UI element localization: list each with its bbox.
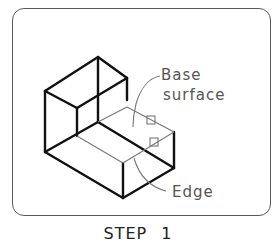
label-base: Base <box>161 68 202 83</box>
step-caption: STEP 1 <box>0 224 276 243</box>
label-edge: Edge <box>172 185 214 200</box>
isometric-drawing <box>0 0 276 252</box>
label-surface: surface <box>163 88 225 103</box>
construction-lines <box>77 76 174 191</box>
